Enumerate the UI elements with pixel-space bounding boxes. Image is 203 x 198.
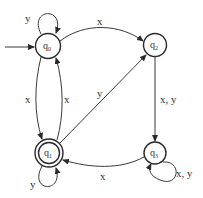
edge-q3-q3 — [150, 162, 176, 182]
edge-label-q1-q1: y — [30, 178, 36, 190]
edge-q1-q1 — [39, 166, 57, 187]
edge-label-q1-q0: x — [64, 93, 70, 105]
edge-q1-q2 — [60, 55, 146, 143]
automaton-diagram: y x x x y y x, y x x, y q0 q2 q1 q3 — [0, 0, 203, 198]
edge-label-q1-q2: y — [97, 87, 103, 99]
edge-q0-q0 — [38, 14, 57, 34]
state-q3: q3 — [144, 142, 166, 164]
state-q1-accepting: q1 — [35, 139, 63, 167]
edge-label-q3-q1: x — [100, 170, 106, 182]
edge-q1-q0 — [56, 58, 62, 140]
edge-label-q3-q3: x, y — [176, 167, 193, 179]
edge-label-q2-q3: x, y — [160, 93, 177, 105]
edge-label-q0-q1: x — [25, 93, 31, 105]
edge-label-q0-q0: y — [25, 12, 31, 24]
state-q2: q2 — [144, 34, 167, 57]
edge-q0-q1 — [36, 57, 42, 139]
state-q0: q0 — [36, 34, 61, 59]
edge-q0-q2 — [60, 27, 143, 41]
edge-q3-q1 — [63, 157, 144, 166]
edge-label-q0-q2: x — [97, 15, 103, 27]
